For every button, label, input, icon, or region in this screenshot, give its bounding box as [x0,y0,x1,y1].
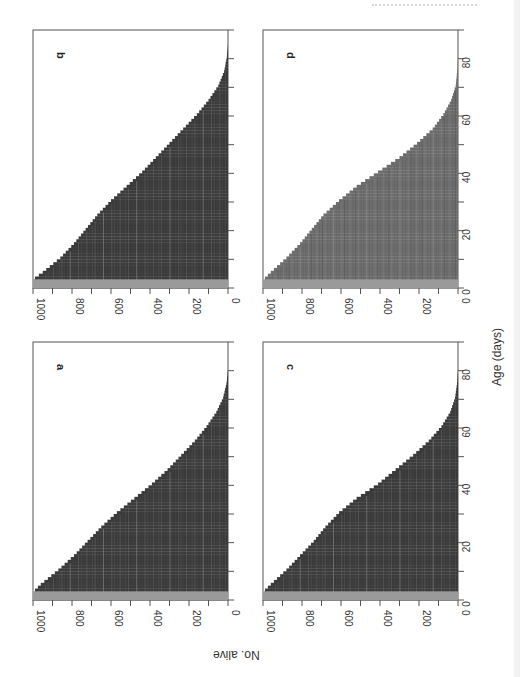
svg-text:0: 0 [460,298,471,304]
svg-text:60: 60 [461,426,472,438]
svg-text:400: 400 [382,610,393,627]
svg-text:600: 600 [113,610,124,627]
svg-text:200: 200 [421,298,432,315]
svg-text:800: 800 [304,298,315,315]
svg-text:600: 600 [343,610,354,627]
svg-text:200: 200 [421,610,432,627]
svg-text:1000: 1000 [265,610,276,633]
panel-letter-d: d [285,52,297,59]
svg-text:60: 60 [461,114,472,126]
base-band [33,279,228,288]
base-band [33,591,228,600]
svg-text:1000: 1000 [265,298,276,321]
svg-text:40: 40 [461,171,472,183]
no-alive-ticks: 02004006008001000 [33,288,241,321]
no-alive-ticks: 02004006008001000 [33,600,241,633]
svg-text:1000: 1000 [35,610,46,633]
survival-plot-b: b02004006008001000 [0,20,260,330]
svg-text:800: 800 [74,298,85,315]
svg-text:20: 20 [461,229,472,241]
svg-text:80: 80 [461,369,472,381]
svg-text:20: 20 [461,541,472,553]
svg-text:600: 600 [113,298,124,315]
svg-text:400: 400 [152,298,163,315]
base-band [263,279,458,288]
svg-text:400: 400 [382,298,393,315]
svg-text:200: 200 [191,610,202,627]
svg-text:800: 800 [74,610,85,627]
svg-text:40: 40 [461,483,472,495]
survival-plot-a: a02004006008001000 [0,332,260,642]
base-band [263,591,458,600]
panel-letter-b: b [55,52,67,59]
panel-letter-c: c [285,364,297,370]
svg-text:0: 0 [461,601,472,607]
svg-text:200: 200 [191,298,202,315]
x-axis-label: Age (days) [490,328,504,386]
svg-text:0: 0 [461,289,472,295]
running-header-fragment [372,0,477,6]
svg-text:600: 600 [343,298,354,315]
page-edge [514,0,520,677]
no-alive-ticks: 02004006008001000 [263,600,471,633]
age-ticks: 020406080 [458,30,472,295]
survival-plot-d: d02004006008001000020406080 [230,20,490,330]
survival-plot-c: c02004006008001000020406080 [230,332,490,642]
panel-d: d02004006008001000020406080 [230,20,490,330]
age-ticks: 020406080 [458,342,472,607]
svg-text:80: 80 [461,57,472,69]
svg-text:1000: 1000 [35,298,46,321]
y-axis-label: No. alive [213,648,260,662]
svg-text:800: 800 [304,610,315,627]
panel-b: b02004006008001000 [0,20,260,330]
panel-c: c02004006008001000020406080 [230,332,490,642]
svg-text:400: 400 [152,610,163,627]
panel-letter-a: a [55,364,67,371]
svg-text:0: 0 [460,610,471,616]
panel-a: a02004006008001000 [0,332,260,642]
no-alive-ticks: 02004006008001000 [263,288,471,321]
